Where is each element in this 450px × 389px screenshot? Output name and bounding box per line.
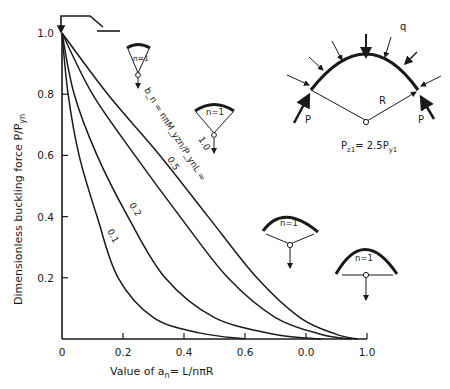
x-tick-label: 0.4 xyxy=(176,346,193,358)
x-tick-label: 0.6 xyxy=(237,346,254,358)
x-tick-label: 0.2 xyxy=(115,346,132,358)
x-tick-label: 0 xyxy=(59,346,66,358)
curve-0.1 xyxy=(62,33,245,339)
y-tick-label: 0.6 xyxy=(37,149,54,161)
load-label-q: q xyxy=(400,21,406,32)
mode-icon-4: n=1 xyxy=(336,250,397,301)
curve-label-0.5: 0.5 xyxy=(165,155,181,172)
mode-label: n=1 xyxy=(133,54,149,63)
curve-0.5 xyxy=(62,33,352,339)
radius-label: R xyxy=(379,95,386,106)
curve-0.2 xyxy=(62,33,321,339)
curve-label-1.0: 1.0 xyxy=(196,135,212,153)
y-tick-label: 0.2 xyxy=(37,272,54,284)
mode-label: n=1 xyxy=(206,107,224,117)
y-tick-label: 1.0 xyxy=(37,27,54,39)
formula: Pz1= 2.5Py1 xyxy=(341,140,397,154)
buckling-chart: 00.20.40.60.01.0 0.20.40.60.81.0 0.1 0.2… xyxy=(0,0,450,389)
curve-label-0.1: 0.1 xyxy=(105,227,121,244)
force-label-right: P xyxy=(418,114,424,125)
mode-icon-1: n=1 xyxy=(127,45,150,89)
mode-label: n=1 xyxy=(355,253,373,263)
x-tick-label: 0.0 xyxy=(298,346,315,358)
mode-icon-3: n=1 xyxy=(263,217,318,268)
y-axis-title: Dimensionless buckling force P/Pyn xyxy=(12,114,27,305)
x-axis-title: Value of an= L/nπR xyxy=(110,365,214,380)
mode-label: n=1 xyxy=(280,218,298,228)
curves xyxy=(62,33,358,339)
y-tick-label: 0.4 xyxy=(37,211,54,223)
x-tick-label: 1.0 xyxy=(359,346,376,358)
origin-marker xyxy=(58,16,120,32)
x-ticks: 00.20.40.60.01.0 xyxy=(59,333,376,358)
arch-diagram: q R P P Pz1= 2.5Py1 xyxy=(287,21,441,154)
curve-1.0 xyxy=(62,33,358,339)
force-label-left: P xyxy=(305,114,311,125)
y-tick-label: 0.8 xyxy=(37,88,54,100)
curve-label-0.2: 0.2 xyxy=(127,201,143,218)
y-ticks: 0.20.40.60.81.0 xyxy=(37,27,68,284)
